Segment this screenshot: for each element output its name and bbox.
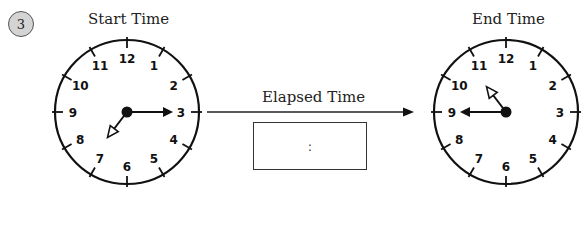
clock-numeral: 4 xyxy=(170,133,178,147)
clock-center-pin xyxy=(501,107,512,118)
elapsed-time-answer-box[interactable]: : xyxy=(253,122,367,170)
clock-numeral: 2 xyxy=(549,79,557,93)
clock-numeral: 10 xyxy=(72,79,89,93)
clock-numeral: 8 xyxy=(455,133,463,147)
clock-numeral: 9 xyxy=(448,106,456,120)
clock-numeral: 3 xyxy=(177,106,185,120)
start-clock: 121234567891011 xyxy=(52,37,202,187)
clock-numeral: 10 xyxy=(451,79,468,93)
clock-numeral: 12 xyxy=(498,52,515,66)
clock-numeral: 9 xyxy=(69,106,77,120)
clock-numeral: 5 xyxy=(529,152,537,166)
end-clock: 121234567891011 xyxy=(431,37,581,187)
clock-numeral: 3 xyxy=(556,106,564,120)
clock-numeral: 2 xyxy=(170,79,178,93)
clock-numeral: 12 xyxy=(119,52,136,66)
clock-numeral: 5 xyxy=(150,152,158,166)
arrow-head-icon xyxy=(403,108,414,117)
clock-numeral: 1 xyxy=(150,59,158,73)
clock-numeral: 11 xyxy=(92,59,109,73)
clock-numeral: 1 xyxy=(529,59,537,73)
elapsed-arrow xyxy=(207,108,414,117)
clock-center-pin xyxy=(122,107,133,118)
clock-numeral: 11 xyxy=(471,59,488,73)
clock-numeral: 8 xyxy=(76,133,84,147)
clock-numeral: 7 xyxy=(96,152,104,166)
clock-numeral: 6 xyxy=(502,160,510,174)
clock-numeral: 6 xyxy=(123,160,131,174)
clock-numeral: 7 xyxy=(475,152,483,166)
answer-colon: : xyxy=(308,139,312,154)
clock-numeral: 4 xyxy=(549,133,557,147)
